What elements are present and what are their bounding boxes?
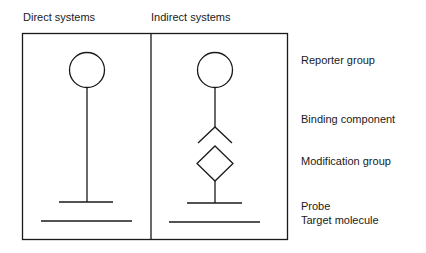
legend-modification-group: Modification group — [301, 155, 391, 168]
panel-frame — [23, 34, 288, 240]
direct-reporter-circle — [70, 53, 105, 88]
indirect-reporter-circle — [198, 53, 233, 88]
direct-system — [41, 53, 132, 222]
legend-reporter-group: Reporter group — [301, 54, 375, 67]
legend-target-molecule: Target molecule — [301, 214, 379, 227]
legend-binding-component: Binding component — [301, 113, 395, 126]
modification-diamond — [197, 146, 233, 181]
indirect-system — [169, 53, 260, 223]
binding-component-v — [198, 127, 232, 143]
legend-probe: Probe — [301, 200, 330, 213]
